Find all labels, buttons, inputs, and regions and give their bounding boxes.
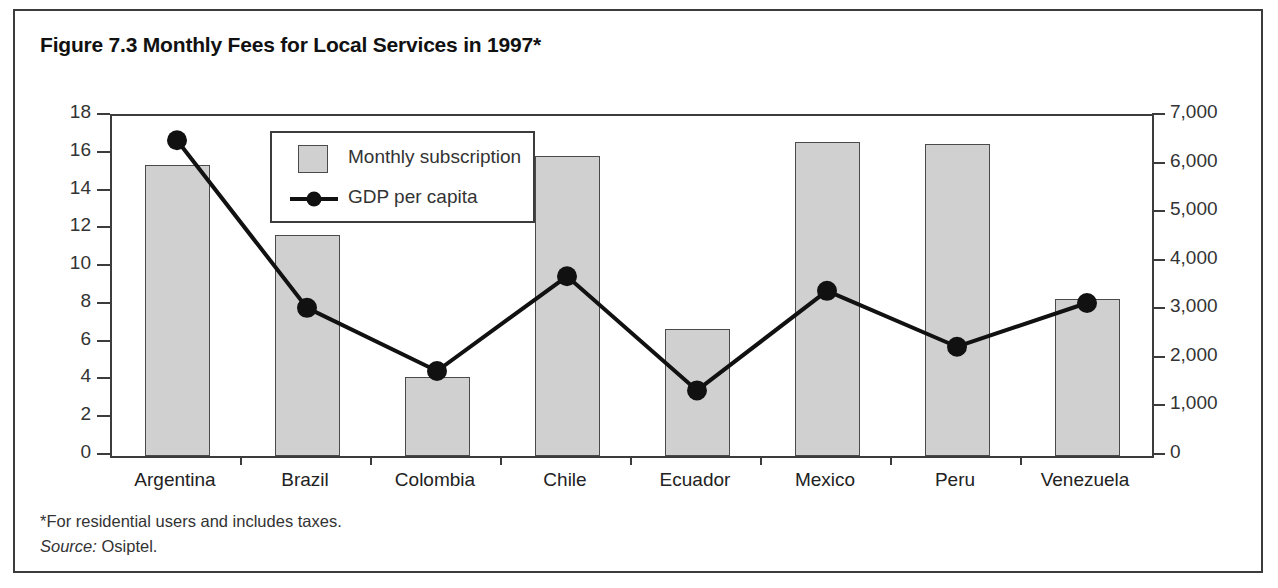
plot-area [110, 114, 1154, 458]
gdp-marker-venezuela [1077, 293, 1097, 313]
gdp-marker-peru [947, 337, 967, 357]
x-axis-label-argentina: Argentina [110, 469, 240, 491]
source-label: Source: [40, 537, 97, 555]
y-right-tick-label: 5,000 [1170, 198, 1250, 220]
y-left-tick-label: 8 [39, 290, 91, 312]
gdp-marker-mexico [817, 281, 837, 301]
legend-label-monthly-subscription: Monthly subscription [348, 146, 521, 168]
figure-source: Source: Osiptel. [40, 534, 342, 559]
y-left-tick-label: 6 [39, 328, 91, 350]
x-axis-label-venezuela: Venezuela [1020, 469, 1150, 491]
y-left-tick [97, 377, 110, 379]
y-left-tick-label: 4 [39, 365, 91, 387]
y-left-tick [97, 113, 110, 115]
legend-item-monthly-subscription: Monthly subscription [272, 139, 533, 179]
y-left-tick-label: 12 [39, 214, 91, 236]
figure-footnote: *For residential users and includes taxe… [40, 509, 342, 534]
y-left-tick [97, 453, 110, 455]
x-axis-label-colombia: Colombia [370, 469, 500, 491]
y-left-tick [97, 264, 110, 266]
gdp-marker-colombia [427, 361, 447, 381]
chart-area: 024681012141618 01,0002,0003,0004,0005,0… [15, 11, 1265, 575]
y-right-tick-label: 7,000 [1170, 101, 1250, 123]
y-right-tick-label: 3,000 [1170, 295, 1250, 317]
y-left-tick-label: 0 [39, 441, 91, 463]
x-axis-label-mexico: Mexico [760, 469, 890, 491]
chart-legend: Monthly subscription GDP per capita [270, 131, 535, 223]
legend-item-gdp-per-capita: GDP per capita [272, 179, 533, 219]
y-left-tick-label: 2 [39, 403, 91, 425]
gdp-marker-chile [557, 266, 577, 286]
gdp-marker-argentina [167, 130, 187, 150]
y-right-tick-label: 0 [1170, 441, 1250, 463]
y-left-tick [97, 151, 110, 153]
y-right-tick-label: 4,000 [1170, 247, 1250, 269]
y-left-tick-label: 18 [39, 101, 91, 123]
legend-line-dot-icon [290, 189, 338, 209]
y-left-tick [97, 415, 110, 417]
y-left-tick [97, 226, 110, 228]
y-left-tick [97, 340, 110, 342]
figure-notes: *For residential users and includes taxe… [40, 509, 342, 559]
x-axis-label-ecuador: Ecuador [630, 469, 760, 491]
y-right-tick-label: 2,000 [1170, 344, 1250, 366]
legend-label-gdp-per-capita: GDP per capita [348, 186, 478, 208]
gdp-marker-ecuador [687, 380, 707, 400]
y-left-tick [97, 189, 110, 191]
source-value: Osiptel. [101, 537, 157, 555]
x-axis-label-brazil: Brazil [240, 469, 370, 491]
y-right-tick-label: 6,000 [1170, 150, 1250, 172]
y-left-tick-label: 16 [39, 139, 91, 161]
y-right-tick-label: 1,000 [1170, 392, 1250, 414]
figure-frame: Figure 7.3 Monthly Fees for Local Servic… [13, 9, 1263, 573]
y-left-tick-label: 10 [39, 252, 91, 274]
y-left-tick-label: 14 [39, 177, 91, 199]
legend-square-icon [298, 145, 328, 173]
gdp-marker-brazil [297, 298, 317, 318]
x-axis-label-chile: Chile [500, 469, 630, 491]
y-left-tick [97, 302, 110, 304]
x-axis-label-peru: Peru [890, 469, 1020, 491]
gdp-line-series [112, 116, 1152, 456]
